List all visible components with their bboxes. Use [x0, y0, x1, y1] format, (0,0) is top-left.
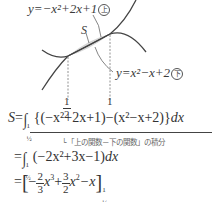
equals-sign: =	[14, 149, 22, 164]
integrand: {(−x²+2x+1)−(x²−x+2)}	[34, 110, 171, 125]
lower-curve-label: y=x²−x+2下	[116, 66, 183, 80]
term1-den: 3	[37, 184, 43, 196]
upper-curve-label: y=−x²+2x+1上	[28, 2, 110, 16]
lower-curve	[42, 33, 146, 57]
area-symbol: S	[8, 110, 15, 125]
integral-sign-icon: ∫	[22, 150, 26, 167]
upper-limit: 1	[102, 187, 107, 194]
solution-line-3: =[−23x3+32x2−x]1½	[14, 171, 109, 202]
lower-marker-icon: 下	[171, 68, 183, 80]
integral-sign-icon: ∫	[23, 111, 27, 128]
term2-fraction: 32	[62, 171, 70, 195]
integrand: (−2x²+3x−1)	[33, 149, 105, 164]
term1-sign: −	[29, 174, 37, 189]
graph-svg	[0, 0, 219, 110]
term1-fraction: 23	[36, 171, 44, 195]
equals-sign: =	[15, 110, 23, 125]
left-bracket: [	[22, 171, 29, 193]
annotation-note: └「上の関数－下の関数」の積分	[62, 136, 165, 147]
region-label: S	[81, 24, 87, 36]
lower-limit: ½	[27, 136, 32, 143]
parabola-graph: y=−x²+2x+1上 S y=x²−x+2下 12 1	[0, 0, 219, 110]
upper-marker-icon: 上	[98, 4, 110, 16]
lower-limit: ½	[102, 200, 107, 202]
term1-num: 2	[36, 171, 44, 184]
region-label-text: S	[81, 23, 87, 37]
equals-sign: =	[14, 174, 22, 189]
term2-den: 2	[63, 184, 69, 196]
evaluation-limits: 1½	[102, 187, 107, 202]
underline-rule	[30, 132, 212, 133]
term3: −x	[80, 174, 96, 189]
differential: dx	[171, 110, 184, 125]
term2-sign: +	[54, 174, 62, 189]
right-bracket: ]	[96, 171, 103, 193]
term2-num: 3	[62, 171, 70, 184]
upper-curve-equation: y=−x²+2x+1	[28, 1, 97, 16]
lower-curve-equation: y=x²−x+2	[116, 65, 170, 80]
upper-label-leader	[93, 15, 101, 37]
x-tick-one: 1	[107, 96, 113, 107]
tick-half-num: 1	[63, 96, 71, 109]
differential: dx	[105, 149, 118, 164]
